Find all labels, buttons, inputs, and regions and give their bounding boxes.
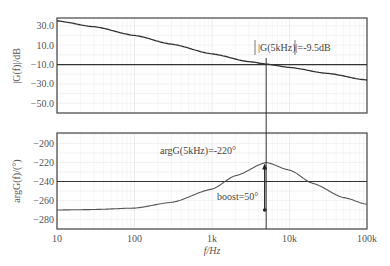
y-tick-label: −200 (33, 138, 54, 149)
x-axis-label: f/Hz (204, 245, 221, 256)
y-tick-label: −260 (33, 195, 54, 206)
y-tick-label: 30.0 (37, 20, 55, 31)
boost-annotation: boost=50° (217, 191, 258, 202)
phase-annotation: argG(5kHz)=-220° (160, 145, 236, 157)
y-tick-label: −220 (33, 157, 54, 168)
magnitude-y-axis-label: |G(f)|/dB (11, 48, 23, 84)
x-tick-label: 1k (207, 233, 217, 244)
x-tick-label: 100 (127, 233, 142, 244)
phase-y-axis-label: argG(f)/(°) (11, 159, 23, 202)
x-axis-ticks: 101001k10k100k (52, 233, 377, 244)
magnitude-grid (57, 18, 367, 113)
y-tick-label: −240 (33, 176, 54, 187)
x-tick-label: 100k (357, 233, 377, 244)
y-tick-label: −30.0 (31, 78, 54, 89)
y-tick-label: −50.0 (31, 98, 54, 109)
x-tick-label: 10k (282, 233, 297, 244)
boost-start-dot (263, 208, 267, 212)
y-tick-label: −10.0 (31, 59, 54, 70)
y-tick-label: 10.0 (37, 40, 55, 51)
magnitude-annotation: |G(5kHz)|=-9.5dB (258, 42, 331, 54)
bode-plot-figure: |G(5kHz)|=-9.5dB argG(5kHz)=-220° boost=… (0, 0, 390, 266)
x-tick-label: 10 (52, 233, 62, 244)
magnitude-y-ticks: 30.010.0−10.0−30.0−50.0 (31, 20, 54, 109)
phase-y-ticks: −200−220−240−260−280 (33, 138, 54, 225)
y-tick-label: −280 (33, 214, 54, 225)
